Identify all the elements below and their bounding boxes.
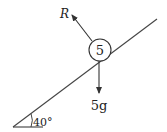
weight-label: 5g <box>91 98 108 113</box>
angle-label: 40° <box>33 116 53 129</box>
incline-diagram: 5 R 5g 40° <box>0 0 167 132</box>
reaction-label: R <box>59 7 69 21</box>
inclined-plane <box>13 19 157 127</box>
particle-mass-label: 5 <box>96 43 104 58</box>
reaction-force-arrow <box>72 15 92 41</box>
